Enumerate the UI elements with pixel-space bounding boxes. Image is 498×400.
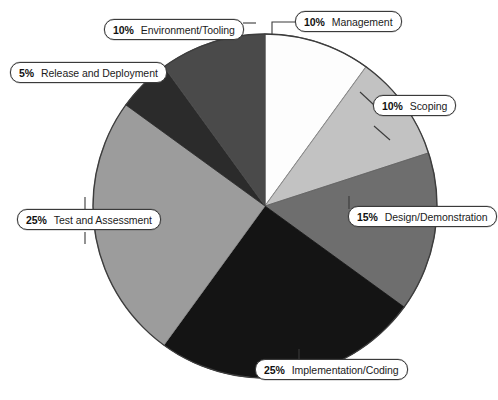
callout-implementation-label: Implementation/Coding: [292, 364, 399, 376]
callout-release-label: Release and Deployment: [41, 67, 158, 79]
callout-release-percent: 5%: [19, 67, 34, 79]
callout-scoping-percent: 10%: [382, 100, 403, 112]
callout-environment-tooling[interactable]: 10% Environment/Tooling: [104, 19, 244, 40]
callout-scoping-label: Scoping: [410, 100, 448, 112]
callout-scoping[interactable]: 10% Scoping: [373, 95, 456, 116]
callout-test-and-assessment[interactable]: 25% Test and Assessment: [17, 209, 161, 230]
callout-management-label: Management: [332, 16, 393, 28]
callout-design-percent: 15%: [357, 211, 378, 223]
callout-test-percent: 25%: [26, 214, 47, 226]
leader-line-management: [272, 22, 296, 35]
callout-environment-label: Environment/Tooling: [141, 24, 235, 36]
callout-design-label: Design/Demonstration: [385, 211, 488, 223]
callout-design-demonstration[interactable]: 15% Design/Demonstration: [348, 206, 497, 227]
callout-environment-percent: 10%: [113, 24, 134, 36]
pie-chart-figure: 10% Management 10% Scoping 15% Design/De…: [0, 0, 498, 400]
callout-management-percent: 10%: [304, 16, 325, 28]
callout-implementation-percent: 25%: [264, 364, 285, 376]
callout-implementation-coding[interactable]: 25% Implementation/Coding: [255, 359, 408, 380]
pie-chart-svg: [0, 0, 498, 400]
callout-test-label: Test and Assessment: [54, 214, 152, 226]
callout-release-and-deployment[interactable]: 5% Release and Deployment: [10, 62, 167, 83]
callout-management[interactable]: 10% Management: [295, 11, 402, 32]
